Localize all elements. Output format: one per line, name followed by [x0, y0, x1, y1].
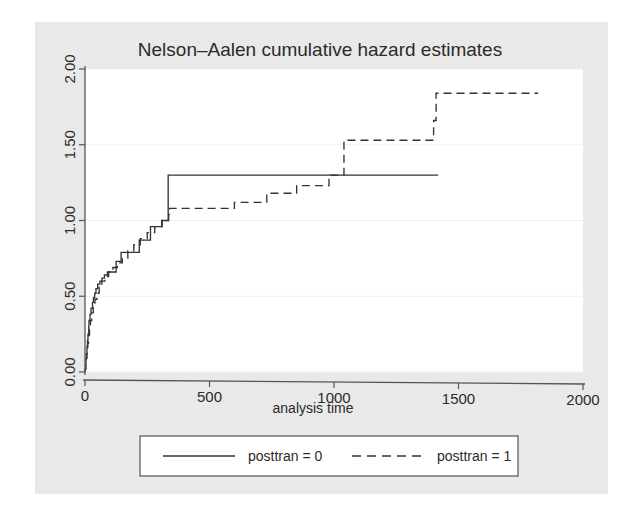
chart-legend: posttran = 0 posttran = 1 — [140, 436, 518, 476]
x-tick-label-1: 500 — [197, 388, 222, 405]
chart-canvas: 0.000.501.001.502.00 0500100015002000 Ne… — [0, 0, 640, 516]
y-axis-tick-labels: 0.000.501.001.502.00 — [61, 54, 78, 386]
y-tick-label-2: 1.00 — [61, 206, 78, 235]
y-tick-label-1: 0.50 — [61, 282, 78, 311]
x-tick-label-4: 2000 — [566, 391, 599, 408]
y-tick-label-3: 1.50 — [61, 130, 78, 159]
x-tick-label-0: 0 — [81, 387, 89, 404]
x-axis-title: analysis time — [273, 400, 354, 416]
legend-label-0: posttran = 0 — [248, 448, 323, 464]
y-tick-label-4: 2.00 — [61, 54, 78, 83]
legend-label-1: posttran = 1 — [437, 448, 512, 464]
x-tick-label-3: 1500 — [442, 390, 475, 407]
y-axis-ticks — [79, 69, 85, 372]
chart-title: Nelson–Aalen cumulative hazard estimates — [138, 39, 502, 60]
y-tick-label-0: 0.00 — [61, 357, 78, 386]
